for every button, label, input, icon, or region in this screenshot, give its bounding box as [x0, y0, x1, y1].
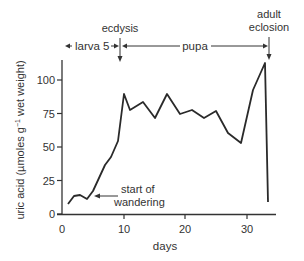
xtick-0: 0	[59, 223, 65, 235]
svg-text:adult: adult	[257, 8, 281, 20]
x-tick-labels: 0 10 20 30	[59, 223, 253, 235]
right-arrow-icon	[114, 44, 119, 49]
xtick-20: 20	[179, 223, 191, 235]
ytick-75: 75	[43, 108, 55, 120]
ytick-25: 25	[43, 175, 55, 187]
xtick-10: 10	[118, 223, 130, 235]
ytick-0: 0	[49, 208, 55, 220]
start-of-wandering-annotation: start of wandering	[94, 183, 165, 208]
ytick-50: 50	[43, 141, 55, 153]
y-axis-label: uric acid (µmoles g−1 wet weight)	[14, 60, 26, 219]
svg-text:pupa: pupa	[182, 40, 208, 52]
uric-acid-series-line	[68, 63, 268, 204]
svg-text:start of: start of	[121, 183, 156, 195]
xtick-30: 30	[241, 223, 253, 235]
right-arrow-icon	[263, 44, 268, 49]
phase-annotations: larva 5 ecdysis pupa adult eclosion	[65, 8, 289, 62]
svg-text:wandering: wandering	[113, 196, 165, 208]
x-axis-label: days	[153, 240, 178, 252]
down-arrow-icon	[118, 56, 123, 62]
uric-acid-chart: 0 25 50 75 100 0 10 20 30 days uric acid…	[0, 0, 304, 261]
y-tick-labels: 0 25 50 75 100	[37, 74, 55, 220]
arrowhead-icon	[94, 194, 100, 199]
down-arrow-icon	[267, 54, 272, 60]
svg-text:larva 5: larva 5	[75, 40, 110, 52]
svg-text:eclosion: eclosion	[249, 21, 289, 33]
ytick-100: 100	[37, 74, 55, 86]
y-ticks	[57, 80, 62, 214]
svg-text:ecdysis: ecdysis	[102, 22, 139, 34]
